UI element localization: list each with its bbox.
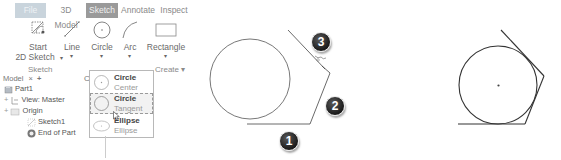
- ellipse-icon: [92, 117, 111, 134]
- tree-item-label: Origin: [23, 106, 43, 115]
- arc-label: Arc: [118, 42, 142, 52]
- circle-button[interactable]: Circle ▾: [88, 20, 116, 60]
- tab-file[interactable]: File: [15, 3, 46, 18]
- tangent-circle-result-diagram: [400, 20, 561, 140]
- tree-item-sketch1[interactable]: Sketch1: [27, 116, 65, 127]
- circle-caret-icon: ▾: [100, 52, 103, 59]
- panel-label-sketch: Sketch: [28, 65, 52, 74]
- step-badge-1: 1: [279, 131, 299, 151]
- tree-item-view-master[interactable]: + View: Master: [4, 94, 65, 105]
- tab-3d-model[interactable]: 3D Model: [49, 3, 83, 18]
- menu-item-ellipse[interactable]: Ellipse Ellipse: [90, 115, 153, 136]
- line-icon: [63, 20, 81, 38]
- create-panel-button[interactable]: Create ▾: [155, 65, 185, 74]
- circle-label: Circle: [88, 42, 116, 52]
- tree-item-label: End of Part: [38, 128, 76, 137]
- folder-icon: [10, 107, 20, 116]
- separator-line: [105, 136, 106, 158]
- sketch-icon: [27, 118, 36, 127]
- tab-annotate[interactable]: Annotate: [120, 3, 156, 18]
- line-caret-icon: ▾: [70, 52, 73, 59]
- tree-item-part1[interactable]: Part1: [4, 83, 33, 94]
- model-browser-title: Model: [3, 74, 23, 83]
- menu-item-title: Circle: [114, 94, 136, 103]
- close-icon[interactable]: ×: [29, 74, 33, 83]
- tab-inspect[interactable]: Inspect: [158, 3, 190, 18]
- rectangle-button[interactable]: Rectangle ▾: [144, 20, 188, 60]
- menu-item-title: Circle: [114, 73, 136, 82]
- expand-icon[interactable]: +: [4, 106, 8, 115]
- start-2d-sketch-icon: [30, 20, 48, 38]
- start-label-line1: Start: [18, 42, 58, 52]
- tree-item-origin[interactable]: + Origin: [4, 105, 43, 116]
- menu-item-subtitle: Ellipse: [114, 126, 138, 135]
- model-browser-header: Model × +: [3, 74, 41, 83]
- tree-item-label: Part1: [15, 84, 33, 93]
- arc-icon: [120, 20, 140, 40]
- expand-icon[interactable]: +: [4, 95, 8, 104]
- add-tab-icon[interactable]: +: [37, 74, 41, 83]
- tree-item-label: View: Master: [22, 95, 65, 104]
- rectangle-caret-icon: ▾: [164, 52, 167, 59]
- tree-item-end-of-part[interactable]: End of Part: [27, 127, 76, 138]
- start-2d-sketch-button[interactable]: Start 2D Sketch ▾: [18, 20, 58, 66]
- view-icon: [10, 96, 19, 105]
- arc-button[interactable]: Arc ▾: [118, 20, 142, 60]
- create-caret-icon: ▾: [181, 65, 185, 74]
- circle-icon: [92, 20, 112, 40]
- menu-item-circle-center-point[interactable]: Circle Center Point: [90, 72, 153, 93]
- line-label: Line: [60, 42, 84, 52]
- step-badge-3: 3: [311, 32, 331, 52]
- panel-label-create: Create: [155, 65, 179, 74]
- line-button[interactable]: Line ▾: [60, 20, 84, 60]
- end-of-part-icon: [27, 129, 36, 138]
- mouse-cursor-icon: [113, 111, 120, 121]
- rectangle-label: Rectangle: [144, 42, 188, 52]
- step-badge-2: 2: [325, 96, 345, 116]
- tree-item-label: Sketch1: [38, 117, 65, 126]
- circle-center-point-icon: [92, 74, 111, 91]
- menu-item-circle-tangent[interactable]: Circle Tangent: [90, 93, 153, 114]
- rectangle-icon: [154, 22, 178, 38]
- part-icon: [4, 85, 13, 94]
- start-label-line2: 2D Sketch: [12, 52, 58, 62]
- arc-caret-icon: ▾: [128, 52, 131, 59]
- tab-sketch[interactable]: Sketch: [86, 3, 118, 18]
- circle-dropdown-menu: Circle Center Point Circle Tangent Ellip…: [89, 70, 154, 138]
- circle-tangent-icon: [92, 95, 111, 112]
